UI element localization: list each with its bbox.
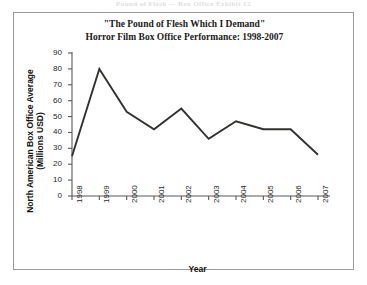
- y-tick-label: 30: [40, 144, 62, 152]
- y-tick-marks: [68, 53, 72, 196]
- x-tick-label: 2006: [295, 185, 303, 203]
- y-tick-label: 50: [40, 113, 62, 121]
- y-tick-label: 40: [40, 128, 62, 136]
- x-tick-label: 2001: [158, 185, 166, 203]
- y-tick-label: 80: [40, 65, 62, 73]
- x-tick-label: 2007: [322, 185, 330, 203]
- data-series-line: [72, 69, 318, 156]
- x-tick-label: 2004: [240, 185, 248, 203]
- y-tick-label: 0: [40, 192, 62, 200]
- x-tick-label: 2005: [267, 185, 275, 203]
- x-tick-label: 2000: [131, 185, 139, 203]
- y-tick-label: 20: [40, 160, 62, 168]
- x-tick-label: 1998: [76, 185, 84, 203]
- x-tick-label: 2003: [213, 185, 221, 203]
- y-tick-label: 60: [40, 97, 62, 105]
- y-tick-label: 10: [40, 176, 62, 184]
- x-tick-label: 1999: [103, 185, 111, 203]
- axes-group: [72, 52, 330, 196]
- y-tick-label: 70: [40, 81, 62, 89]
- y-tick-label: 90: [40, 49, 62, 57]
- x-tick-label: 2002: [185, 185, 193, 203]
